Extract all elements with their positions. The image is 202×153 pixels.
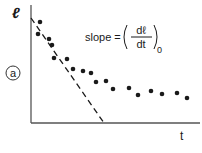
y-axis-label: ℓ: [12, 4, 20, 21]
data-point: [50, 43, 55, 48]
data-point: [38, 20, 43, 25]
diagram-canvas: ℓ t a slope = dℓ dt 0: [0, 0, 202, 153]
data-point: [65, 57, 70, 62]
data-point: [136, 93, 141, 98]
data-point: [149, 89, 154, 94]
slope-label: slope =: [85, 31, 121, 43]
data-point: [185, 96, 190, 101]
data-point: [71, 67, 76, 72]
data-point: [175, 91, 180, 96]
fraction-denominator: dt: [136, 38, 145, 50]
data-point: [89, 71, 94, 76]
x-axis-label: t: [180, 129, 184, 143]
data-point: [127, 86, 132, 91]
left-paren: [124, 25, 127, 49]
data-point: [104, 79, 109, 84]
fraction-numerator: dℓ: [136, 24, 146, 36]
data-point: [94, 80, 99, 85]
panel-label: a: [10, 67, 17, 79]
data-point: [52, 56, 57, 61]
data-point: [47, 37, 52, 42]
data-point: [36, 32, 41, 37]
subscript-zero: 0: [157, 45, 162, 55]
data-point: [111, 87, 116, 92]
data-point: [160, 92, 165, 97]
data-point: [81, 69, 86, 74]
